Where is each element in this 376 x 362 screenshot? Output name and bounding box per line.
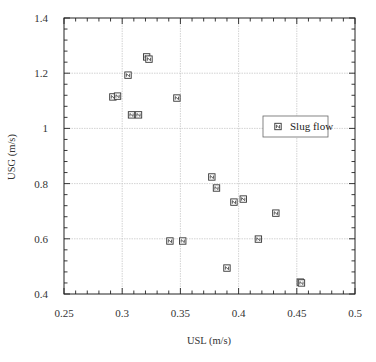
x-axis-tick-labels: 0.250.30.350.40.450.5 [54,307,362,319]
data-point-marker [298,280,304,286]
data-point-marker [255,236,261,242]
x-tick-label: 0.25 [54,307,74,319]
y-tick-label: 1 [43,122,49,134]
data-point-marker [135,112,141,118]
data-point-marker [240,196,246,202]
legend: Slug flow [263,116,333,137]
y-axis-label: USG (m/s) [6,134,18,180]
data-point-marker [128,112,134,118]
gridlines [64,18,355,294]
x-tick-label: 0.3 [115,307,129,319]
y-tick-label: 0.4 [34,288,48,300]
data-points [110,54,305,286]
axis-ticks [64,18,355,294]
data-point-marker [231,199,237,205]
x-tick-label: 0.5 [348,307,362,319]
data-point-marker [167,238,173,244]
data-point-marker [224,265,230,271]
x-tick-label: 0.35 [171,307,191,319]
y-tick-label: 0.6 [34,233,48,245]
data-point-marker [146,56,152,62]
data-point-marker [114,93,120,99]
plot-area-frame [64,18,355,294]
scatter-chart: 0.250.30.350.40.450.5 0.40.60.811.21.4 S… [0,0,376,362]
slug-flow-marker-icon [275,123,281,129]
legend-marker-glyph [275,123,281,129]
x-tick-label: 0.45 [287,307,307,319]
x-tick-label: 0.4 [232,307,246,319]
data-point-marker [174,95,180,101]
y-axis-tick-labels: 0.40.60.811.21.4 [34,12,48,300]
data-point-marker [273,210,279,216]
data-point-marker [125,72,131,78]
data-point-marker [213,185,219,191]
data-point-marker [209,174,215,180]
legend-entry-slug-flow: Slug flow [290,120,333,132]
x-axis-label: USL (m/s) [187,335,232,347]
y-tick-label: 1.2 [34,67,48,79]
y-tick-label: 0.8 [34,178,48,190]
data-point-marker [180,238,186,244]
y-tick-label: 1.4 [34,12,48,24]
